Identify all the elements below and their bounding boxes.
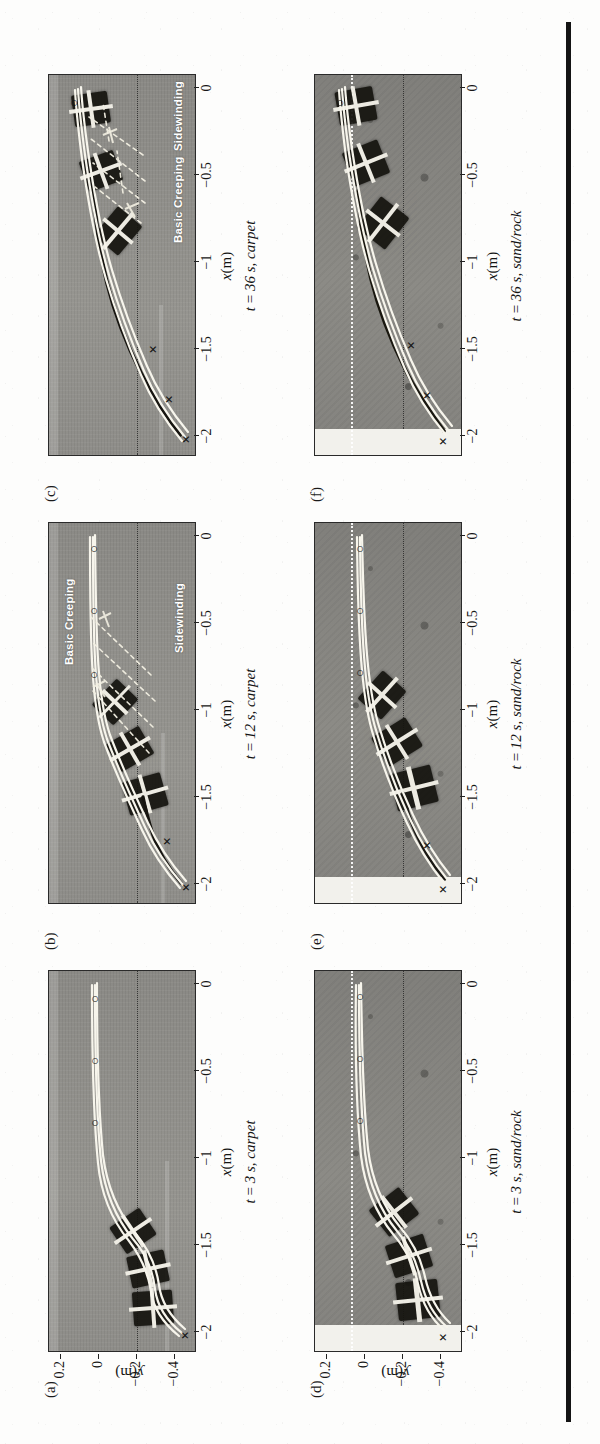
start-marker: ✕ [181, 435, 192, 444]
figure-row-sandrock: (d) 0.2 0 −0.2 −0.4 y(m) [308, 32, 558, 1412]
x-tick-label: −2 [199, 429, 215, 444]
x-tick-label: −0.5 [199, 610, 215, 635]
x-tick-label: −1 [199, 1151, 215, 1166]
x-tick-label: −1 [465, 255, 481, 270]
start-marker: ✕ [438, 437, 449, 446]
plot-area-a: ○ ○ ○ ✕ [48, 970, 196, 1352]
waypoint-marker: ○ [353, 669, 366, 677]
y-axis-title-a: y(m) [70, 1364, 190, 1381]
waypoint-marker: ○ [353, 607, 366, 615]
x-tick-label: −2 [465, 429, 481, 444]
panel-letter-f: (f) [308, 487, 325, 502]
panel-caption-f: t = 36 s, sand/rock [508, 76, 525, 456]
x-tick-label: −2 [199, 877, 215, 892]
panel-c: (c) [42, 70, 292, 502]
trajectory-overlay-d [315, 971, 461, 1351]
x-axis-ticks-e: 0 −0.5 −1 −1.5 −2 [460, 524, 482, 904]
waypoint-marker: ○ [88, 1119, 101, 1127]
trajectory-overlay-f [315, 75, 461, 455]
trajectory-overlay-a [49, 971, 195, 1351]
panel-caption-a: t = 3 s, carpet [242, 972, 259, 1352]
panel-letter-c: (c) [42, 485, 59, 502]
start-marker: ✕ [422, 391, 433, 400]
panel-caption-c: t = 36 s, carpet [242, 76, 259, 456]
x-tick-label: −0.5 [465, 610, 481, 635]
x-tick-label: −1.5 [465, 336, 481, 361]
x-axis-ticks-b: 0 −0.5 −1 −1.5 −2 [194, 524, 216, 904]
x-axis-title-a: x(m) [218, 972, 235, 1352]
x-tick-label: −1.5 [199, 1232, 215, 1257]
x-tick-label: −1.5 [199, 784, 215, 809]
x-tick-label: −0.5 [199, 162, 215, 187]
start-marker: ✕ [422, 841, 433, 850]
x-tick-label: −2 [199, 1325, 215, 1340]
y-tick-label: 0.2 [318, 1361, 334, 1379]
x-tick-label: 0 [465, 533, 481, 540]
x-tick-label: −1 [465, 703, 481, 718]
waypoint-marker: ○ [333, 99, 346, 107]
x-axis-ticks-c: 0 −0.5 −1 −1.5 −2 [194, 76, 216, 456]
annotation-sidewinding: Sidewinding [172, 81, 184, 151]
panel-letter-e: (e) [308, 933, 325, 950]
panel-caption-b: t = 12 s, carpet [242, 524, 259, 904]
panel-caption-d: t = 3 s, sand/rock [508, 972, 525, 1352]
panel-b: (b) [42, 518, 292, 950]
x-tick-label: 0 [199, 533, 215, 540]
x-axis-title-d: x(m) [484, 972, 501, 1352]
x-tick-label: −1.5 [199, 336, 215, 361]
x-tick-label: −0.5 [465, 162, 481, 187]
waypoint-marker: ○ [353, 545, 366, 553]
waypoint-marker: ○ [87, 607, 100, 615]
x-axis-title-c: x(m) [218, 76, 235, 456]
x-tick-label: −1 [465, 1151, 481, 1166]
x-axis-ticks-a: 0 −0.5 −1 −1.5 −2 [194, 972, 216, 1352]
waypoint-marker: ○ [353, 1117, 366, 1125]
waypoint-marker: ○ [67, 99, 80, 107]
figure-row-carpet: (a) 0.2 0 −0.2 −0.4 y(m) [42, 32, 292, 1412]
x-axis-title-e: x(m) [484, 524, 501, 904]
trajectory-overlay-e [315, 523, 461, 903]
annotation-basic-creeping: Basic Creeping [63, 578, 75, 665]
panel-caption-e: t = 12 s, sand/rock [508, 524, 525, 904]
y-tick-label: 0.2 [52, 1361, 68, 1379]
start-marker: ✕ [438, 885, 449, 894]
x-tick-label: −1 [199, 703, 215, 718]
waypoint-marker: ○ [87, 671, 100, 679]
x-tick-label: 0 [199, 85, 215, 92]
waypoint-marker: ○ [87, 545, 100, 553]
x-axis-ticks-f: 0 −0.5 −1 −1.5 −2 [460, 76, 482, 456]
annotation-sidewinding: Sidewinding [173, 583, 185, 653]
x-axis-title-b: x(m) [218, 524, 235, 904]
x-tick-label: −1.5 [465, 1232, 481, 1257]
x-tick-label: −1 [199, 255, 215, 270]
plot-area-d: ○ ○ ○ ✕ [314, 970, 462, 1352]
x-tick-label: 0 [465, 85, 481, 92]
waypoint-marker: ○ [88, 1057, 101, 1065]
figure-rotated-container: (a) 0.2 0 −0.2 −0.4 y(m) [40, 32, 560, 1412]
waypoint-marker: ○ [353, 1055, 366, 1063]
x-tick-label: 0 [199, 981, 215, 988]
x-tick-label: −0.5 [465, 1058, 481, 1083]
page-spine-bar [566, 22, 571, 1422]
y-axis-title-d: y(m) [336, 1364, 456, 1381]
x-tick-label: −2 [465, 1325, 481, 1340]
plot-area-f: ○ ✕ ✕ ✕ [314, 74, 462, 456]
x-tick-label: −1.5 [465, 784, 481, 809]
panel-e: (e) [308, 518, 558, 950]
plot-area-c: ○ ✕ ✕ ✕ Basic Creeping Sidewinding [48, 74, 196, 456]
panel-f: (f) [308, 70, 558, 502]
x-tick-label: −0.5 [199, 1058, 215, 1083]
panel-a: (a) 0.2 0 −0.2 −0.4 y(m) [42, 966, 292, 1398]
start-marker: ✕ [164, 395, 175, 404]
x-axis-ticks-d: 0 −0.5 −1 −1.5 −2 [460, 972, 482, 1352]
start-marker: ✕ [181, 883, 192, 892]
start-marker: ✕ [162, 837, 173, 846]
annotation-basic-creeping: Basic Creeping [172, 156, 184, 243]
plot-area-b: ○ ○ ○ ✕ ✕ Basic Creeping Sidewinding [48, 522, 196, 904]
plot-area-e: ○ ○ ○ ✕ ✕ [314, 522, 462, 904]
x-tick-label: −2 [465, 877, 481, 892]
x-axis-title-f: x(m) [484, 76, 501, 456]
start-marker: ✕ [180, 1331, 191, 1340]
waypoint-marker: ○ [88, 995, 101, 1003]
start-marker: ✕ [438, 1333, 449, 1342]
